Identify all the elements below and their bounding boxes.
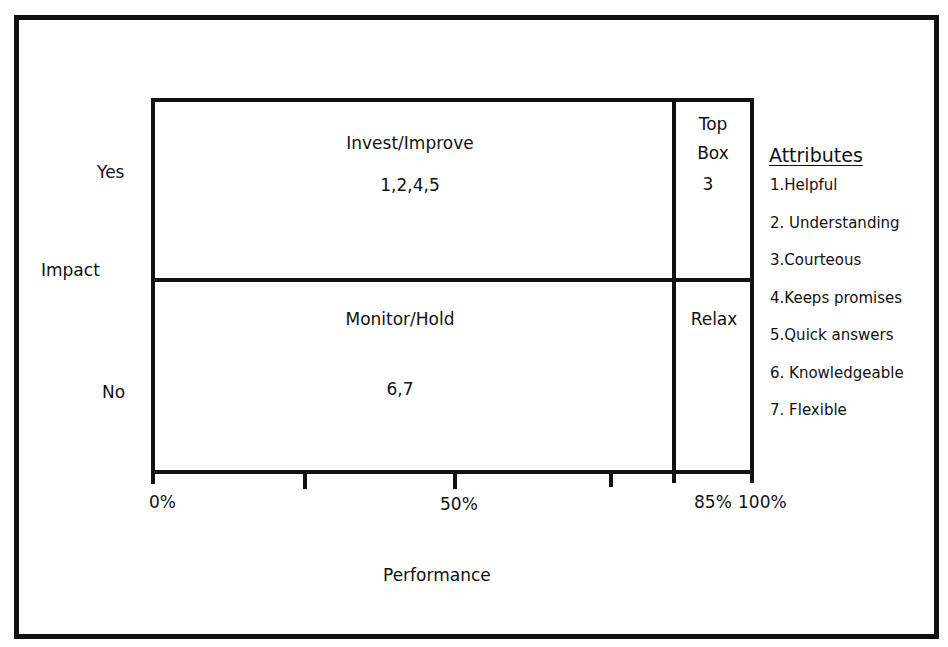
y-tick-yes: Yes (97, 164, 124, 181)
x-tick-25 (303, 470, 307, 489)
attribute-item: 2. Understanding (770, 216, 900, 231)
y-tick-no: No (102, 384, 125, 401)
quadrant-monitor-label: Monitor/Hold (290, 311, 510, 328)
matrix-impact-divider (151, 278, 754, 282)
x-axis-label: Performance (383, 567, 491, 584)
attribute-item: 4.Keeps promises (770, 291, 902, 306)
matrix-top-border (151, 98, 754, 102)
x-tick-label-85: 85% (694, 494, 732, 511)
attributes-title: Attributes (769, 144, 863, 166)
quadrant-relax-label: Relax (676, 311, 752, 328)
attribute-item: 3.Courteous (770, 253, 861, 268)
quadrant-invest-label: Invest/Improve (300, 135, 520, 152)
matrix-left-border (151, 98, 155, 475)
x-tick-50 (453, 470, 457, 489)
quadrant-topbox-items: 3 (676, 176, 740, 193)
x-tick-label-100: 100% (738, 494, 787, 511)
y-axis-label: Impact (41, 262, 100, 279)
quadrant-monitor-items: 6,7 (300, 381, 500, 398)
attribute-item: 7. Flexible (770, 403, 847, 418)
matrix-right-border (750, 98, 754, 483)
x-tick-0 (151, 470, 155, 484)
attribute-item: 5.Quick answers (770, 328, 894, 343)
quadrant-invest-items: 1,2,4,5 (300, 177, 520, 194)
attribute-item: 6. Knowledgeable (770, 366, 904, 381)
quadrant-topbox-label-2: Box (676, 145, 750, 162)
x-tick-label-50: 50% (440, 496, 478, 513)
attribute-item: 1.Helpful (770, 178, 837, 193)
x-tick-label-0: 0% (149, 494, 176, 511)
x-tick-75 (609, 470, 613, 487)
quadrant-topbox-label-1: Top (676, 116, 750, 133)
